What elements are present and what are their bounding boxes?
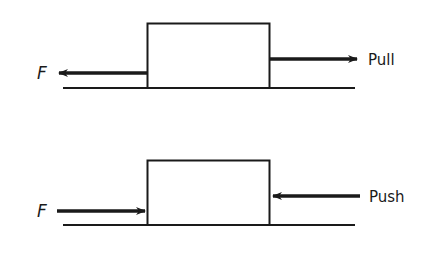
force-label: F bbox=[37, 201, 47, 221]
force-label: F bbox=[37, 63, 47, 83]
block bbox=[148, 24, 270, 89]
block bbox=[148, 161, 270, 226]
pull-panel: F Pull bbox=[37, 24, 395, 89]
push-panel: F Push bbox=[37, 161, 405, 226]
force-diagram: F Pull F Push bbox=[0, 0, 434, 255]
pull-label: Pull bbox=[368, 51, 395, 69]
push-label: Push bbox=[369, 188, 405, 206]
